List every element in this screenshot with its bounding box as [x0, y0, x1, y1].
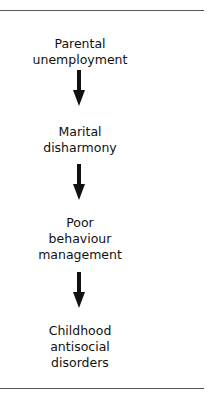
node-parental-unemployment: Parental unemployment	[0, 36, 160, 68]
node-label-line: disharmony	[0, 140, 160, 156]
down-arrow-icon	[73, 272, 85, 308]
node-label-line: Poor	[0, 215, 160, 231]
node-marital-disharmony: Marital disharmony	[0, 124, 160, 156]
bottom-rule	[0, 388, 204, 389]
down-arrow-icon	[73, 70, 85, 106]
node-label-line: Marital	[0, 124, 160, 140]
top-rule	[0, 10, 204, 11]
node-label-line: antisocial	[0, 339, 160, 355]
node-childhood-antisocial-disorders: Childhood antisocial disorders	[0, 323, 160, 371]
node-label-line: unemployment	[0, 52, 160, 68]
node-label-line: Childhood	[0, 323, 160, 339]
down-arrow-icon	[73, 164, 85, 200]
node-label-line: disorders	[0, 355, 160, 371]
node-label-line: behaviour	[0, 231, 160, 247]
node-label-line: Parental	[0, 36, 160, 52]
node-poor-behaviour-management: Poor behaviour management	[0, 215, 160, 263]
node-label-line: management	[0, 247, 160, 263]
